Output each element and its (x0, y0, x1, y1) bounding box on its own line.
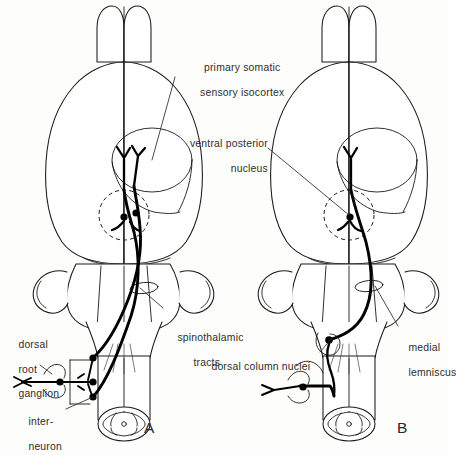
spinal-neuron-soma-upper-a (89, 354, 96, 361)
spinal-neuron-soma-middle-a (89, 378, 96, 385)
thalamic-neuron-soma-medial-a (120, 213, 127, 220)
panel-letter-a: A (144, 419, 155, 437)
label-medial-lemniscus: medial lemniscus (396, 330, 456, 391)
label-line: neuron (28, 441, 62, 452)
olfactory-bulb-left-a (97, 6, 124, 62)
paraflocculus-left-b (258, 271, 293, 313)
label-line: ganglion (18, 388, 59, 399)
cerebellum-a (67, 264, 180, 332)
paraflocculus-left-a (33, 271, 68, 313)
label-line: spinothalamic (177, 332, 243, 343)
olfactory-bulb-right-b (349, 6, 376, 62)
olfactory-bulb-left-b (322, 6, 349, 62)
panel-letter-b: B (397, 419, 408, 437)
label-ventral-posterior-nucleus: ventral posterior nucleus (172, 126, 268, 187)
label-line: nucleus (231, 163, 268, 174)
label-interneuron: inter- neuron (16, 404, 78, 455)
cerebral-hemisphere-right-b (349, 62, 427, 264)
label-line: medial (408, 342, 440, 353)
label-line: lemniscus (408, 367, 456, 378)
peripheral-nerve-b (274, 386, 300, 390)
olfactory-bulb-right-a (124, 6, 151, 62)
paraflocculus-right-a (179, 271, 214, 313)
label-line: dorsal column nuclei (211, 361, 310, 372)
thalamic-neuron-soma-b (346, 213, 353, 220)
paraflocculus-right-b (404, 271, 439, 313)
label-line: sensory isocortex (200, 87, 284, 98)
peripheral-nerve-branch-2-b (262, 390, 274, 395)
label-line: inter- (28, 416, 53, 427)
label-line: root (18, 364, 37, 375)
label-dorsal-root-ganglion: dorsal root ganglion (6, 327, 78, 413)
thalamic-neuron-soma-lateral-a (132, 209, 139, 216)
label-line: dorsal (18, 339, 48, 350)
dorsal-column-nucleus-soma-b (325, 336, 333, 344)
label-line: primary somatic (204, 62, 280, 73)
label-line: ventral posterior (190, 138, 268, 149)
label-primary-somatic-sensory-isocortex: primary somatic sensory isocortex (174, 50, 298, 111)
drg-capsule-lower-b (288, 390, 309, 403)
cerebellum-b (292, 264, 405, 332)
label-dorsal-column-nuclei: dorsal column nuclei (199, 349, 321, 386)
